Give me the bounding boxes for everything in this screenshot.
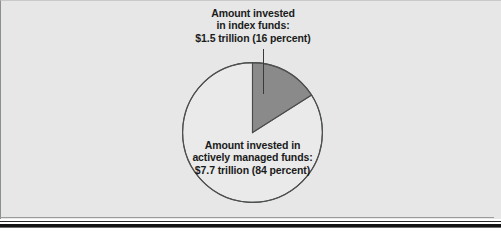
index-funds-callout-line3: $1.5 trillion (16 percent) [178, 32, 328, 44]
actively-managed-callout-line1: Amount invested in [176, 139, 329, 151]
index-funds-callout: Amount invested in index funds: $1.5 tri… [178, 7, 328, 44]
actively-managed-callout-line2: actively managed funds: [176, 151, 329, 163]
page-rule-shadow [0, 227, 501, 228]
actively-managed-funds-callout: Amount invested in actively managed fund… [176, 139, 329, 176]
pie-chart-svg [181, 61, 324, 204]
figure-panel: Amount invested in index funds: $1.5 tri… [0, 0, 501, 237]
index-funds-leader-line [263, 49, 264, 94]
actively-managed-callout-line3: $7.7 trillion (84 percent) [176, 164, 329, 176]
panel-bottom-border [0, 217, 494, 218]
page-rule-thin [0, 221, 501, 222]
pie-chart [181, 61, 324, 204]
index-funds-callout-line2: in index funds: [178, 19, 328, 31]
index-funds-callout-line1: Amount invested [178, 7, 328, 19]
